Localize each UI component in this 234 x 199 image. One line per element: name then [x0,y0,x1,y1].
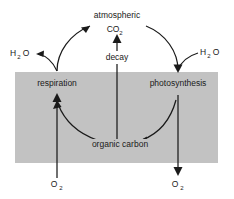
label-o2-left-o: O [51,179,58,189]
arrow-h2o-right-to-photosynthesis [178,53,198,70]
carbon-cycle-figure: atmospheric CO 2 H 2 O H 2 O decay respi… [0,0,234,199]
label-co2-subscript: 2 [119,30,123,36]
label-co2-main: CO [107,24,120,34]
label-organic-carbon: organic carbon [92,139,149,149]
label-h2o-right-subscript: 2 [207,53,211,59]
label-h2o-left-h: H [10,48,16,58]
arrow-respiration-to-atmospheric-co2 [57,26,90,71]
label-h2o-right: H 2 O [200,47,220,59]
label-photosynthesis: photosynthesis [150,78,207,88]
label-o2-right-subscript: 2 [180,185,184,191]
arrow-respiration-to-h2o-left [36,51,57,72]
label-respiration: respiration [37,78,77,88]
label-h2o-left-o: O [23,48,30,58]
label-atmospheric: atmospheric [94,10,141,20]
label-o2-left-subscript: 2 [59,185,63,191]
label-o2-right: O 2 [172,179,185,191]
label-o2-right-o: O [172,179,179,189]
label-h2o-left-subscript: 2 [17,54,21,60]
carbon-cycle-canvas: atmospheric CO 2 H 2 O H 2 O decay respi… [0,0,234,199]
label-h2o-right-h: H [200,47,206,57]
label-decay: decay [106,52,129,62]
label-o2-left: O 2 [51,179,64,191]
label-h2o-right-o: O [213,47,220,57]
arrow-atmospheric-co2-to-photosynthesis [146,26,183,73]
label-h2o-left: H 2 O [10,48,30,60]
label-atmospheric-co2: CO 2 [107,24,124,35]
